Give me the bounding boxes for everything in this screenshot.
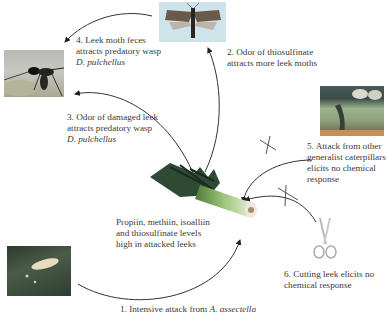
leek-photo xyxy=(140,155,270,225)
step-2-label: 2. Odor of thiosulfinate attracts more l… xyxy=(227,47,317,69)
predatory-wasp-photo xyxy=(4,50,64,97)
center-caption: Propiin, methiin, isoalliin and thiosulf… xyxy=(116,217,210,250)
arrow-step-2 xyxy=(205,48,219,172)
step-5-label: 5. Attack from other generalist caterpil… xyxy=(307,141,386,185)
step-3-label: 3. Odor of damaged leek attracts predato… xyxy=(67,112,158,145)
leek-moth-adult-photo xyxy=(159,2,226,42)
scissors-icon xyxy=(310,218,340,260)
generalist-caterpillar-photo xyxy=(320,86,384,136)
step-1-label: 1. Intensive attack from A. assectella xyxy=(120,304,256,315)
leek-moth-larva-photo xyxy=(7,246,71,296)
step-4-label: 4. Leek moth feces attracts predatory wa… xyxy=(76,35,161,68)
step-6-label: 6. Cutting leek elicits no chemical resp… xyxy=(284,269,374,291)
